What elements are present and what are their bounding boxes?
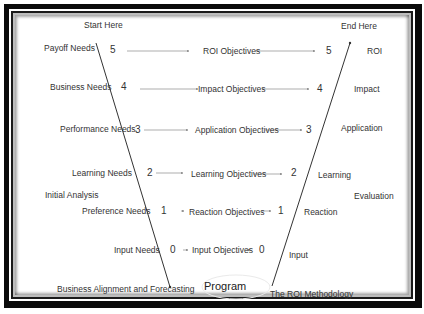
- objective-impact: Impact Objectives: [198, 84, 266, 94]
- eval-input: Input: [289, 250, 308, 260]
- eval-level-4: 4: [317, 83, 323, 95]
- objective-roi: ROI Objectives: [203, 46, 260, 56]
- end-here-label: End Here: [341, 21, 377, 31]
- start-here-label: Start Here: [84, 20, 123, 30]
- need-input: Input Needs: [114, 245, 160, 255]
- eval-roi: ROI: [367, 46, 382, 56]
- eval-level-3: 3: [306, 124, 312, 136]
- need-level-5: 5: [110, 44, 116, 56]
- objective-application: Application Objectives: [195, 125, 279, 135]
- roi-methodology-label: The ROI Methodology: [270, 289, 353, 299]
- objective-reaction: Reaction Objectives: [189, 207, 265, 217]
- objective-learning: Learning Objectives: [191, 169, 266, 179]
- eval-impact: Impact: [354, 84, 380, 94]
- need-learning: Learning Needs: [72, 168, 132, 178]
- need-business: Business Needs: [50, 82, 111, 92]
- need-level-1: 1: [161, 205, 167, 217]
- need-level-2: 2: [147, 167, 153, 179]
- program-label: Program: [204, 280, 246, 292]
- need-preference: Preference Needs: [82, 206, 151, 216]
- evaluation-label: Evaluation: [354, 191, 394, 201]
- need-level-4: 4: [121, 81, 127, 93]
- eval-level-0: 0: [259, 244, 265, 256]
- need-payoff: Payoff Needs: [44, 43, 95, 53]
- business-alignment-label: Business Alignment and Forecasting: [57, 284, 195, 294]
- eval-level-2: 2: [291, 167, 297, 179]
- objective-input: Input Objectives: [192, 245, 253, 255]
- eval-reaction: Reaction: [304, 207, 338, 217]
- eval-level-1: 1: [278, 205, 284, 217]
- eval-level-5: 5: [326, 45, 332, 57]
- need-level-0: 0: [170, 244, 176, 256]
- need-level-3: 3: [135, 124, 141, 136]
- initial-analysis-label: Initial Analysis: [45, 190, 98, 200]
- need-performance: Performance Needs: [60, 124, 136, 134]
- eval-application: Application: [341, 123, 383, 133]
- eval-learning: Learning: [318, 170, 351, 180]
